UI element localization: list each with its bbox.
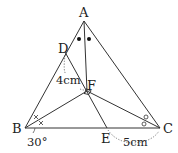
label-d: D (58, 41, 68, 56)
interior-segments (25, 21, 160, 128)
cross-icon (34, 115, 38, 119)
angle-a-marks (77, 37, 91, 41)
measure-df: 4cm (56, 73, 81, 87)
segment-bf (25, 91, 87, 128)
label-b: B (12, 121, 22, 136)
dot-icon (77, 37, 81, 41)
label-c: C (163, 121, 173, 136)
b-angle-arc (33, 128, 35, 133)
circle-mark-icon (142, 122, 146, 126)
segment-cf (87, 91, 160, 128)
label-f: F (87, 78, 96, 93)
measurement-guides (33, 55, 159, 143)
df-dotted-arc (64, 55, 66, 74)
cross-icon (39, 121, 43, 125)
f-dotted-tick (80, 89, 84, 90)
circle-mark-icon (144, 115, 148, 119)
label-a: A (78, 5, 89, 20)
measure-ec: 5cm (123, 135, 148, 149)
triangle-diagram: A D F B E C 4cm 5cm 30° (0, 0, 178, 153)
dot-icon (87, 37, 91, 41)
measure-angle-b: 30° (27, 135, 47, 149)
side-ac (84, 21, 160, 128)
label-e: E (101, 131, 111, 146)
triangle-abc (25, 21, 160, 128)
